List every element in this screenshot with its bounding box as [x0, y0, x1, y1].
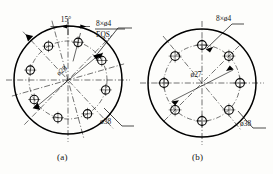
figure-b-outer-dimension: ø38	[238, 111, 266, 128]
figure-a-caption: (a)	[57, 152, 68, 162]
figure-b-bolt-circle-label: ø27	[190, 70, 201, 79]
figure-b: ø27 8×ø4 ø38	[0, 0, 273, 174]
figure-b-outer-label: ø38	[240, 119, 251, 128]
figure-b-bolt-circle-dimension: ø27	[171, 66, 234, 106]
drawing-sheet: 15° ø28 8×ø4 EQS ø38	[0, 0, 273, 174]
figure-b-bolt-dim-line	[172, 70, 233, 101]
figure-b-caption: (b)	[192, 152, 203, 162]
figure-b-hole-count-label: 8×ø4	[216, 14, 232, 23]
